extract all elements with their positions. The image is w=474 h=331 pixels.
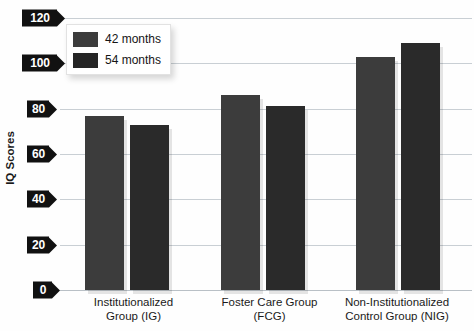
legend-swatch-42-months — [73, 32, 98, 47]
bar-fcg-54-months — [266, 106, 305, 290]
bar-ig-42-months — [85, 116, 124, 291]
gridline-120 — [60, 18, 472, 19]
bar-nig-54-months — [401, 43, 440, 290]
y-tick-pointer-icon — [49, 101, 57, 117]
bar-nig-42-months — [356, 57, 395, 291]
x-axis-label-ig-line1: Institutionalized — [56, 296, 211, 310]
x-axis-label-ig-line2: Group (IG) — [56, 310, 211, 324]
bar-face — [266, 106, 305, 290]
y-tick-pointer-icon — [49, 237, 57, 253]
legend: 42 months 54 months — [66, 24, 171, 75]
y-tick-80-label: 80 — [27, 101, 49, 118]
y-tick-100-label: 100 — [22, 55, 57, 72]
legend-item-54-months: 54 months — [73, 51, 161, 69]
y-tick-0-label: 0 — [33, 282, 52, 299]
y-tick-pointer-icon — [49, 191, 57, 207]
y-tick-60: 60 — [27, 146, 57, 163]
x-axis-label-nig-line2: Control Group (NIG) — [320, 310, 474, 324]
y-tick-20: 20 — [27, 237, 57, 254]
y-tick-pointer-icon — [57, 10, 65, 26]
bar-ig-54-months — [130, 125, 169, 291]
bar-face — [85, 116, 124, 291]
y-tick-120-label: 120 — [22, 10, 57, 27]
y-tick-40: 40 — [27, 191, 57, 208]
legend-item-42-months: 42 months — [73, 30, 161, 48]
y-tick-60-label: 60 — [27, 146, 49, 163]
y-tick-80: 80 — [27, 101, 57, 118]
legend-label-54-months: 54 months — [105, 53, 161, 67]
bar-fcg-42-months — [221, 95, 260, 290]
y-tick-20-label: 20 — [27, 237, 49, 254]
y-axis-title: IQ Scores — [4, 131, 16, 185]
y-tick-pointer-icon — [57, 55, 65, 71]
y-tick-100: 100 — [22, 55, 65, 72]
legend-swatch-54-months — [73, 53, 98, 68]
bar-face — [130, 125, 169, 291]
bar-face — [356, 57, 395, 291]
x-axis-label-ig: Institutionalized Group (IG) — [56, 296, 211, 323]
x-axis-label-nig-line1: Non-Institutionalized — [320, 296, 474, 310]
bar-face — [401, 43, 440, 290]
y-tick-40-label: 40 — [27, 191, 49, 208]
bar-face — [221, 95, 260, 290]
y-tick-120: 120 — [22, 10, 65, 27]
y-tick-pointer-icon — [49, 146, 57, 162]
iq-scores-bar-chart: IQ Scores — [0, 0, 474, 331]
x-axis-label-nig: Non-Institutionalized Control Group (NIG… — [320, 296, 474, 323]
legend-label-42-months: 42 months — [105, 32, 161, 46]
